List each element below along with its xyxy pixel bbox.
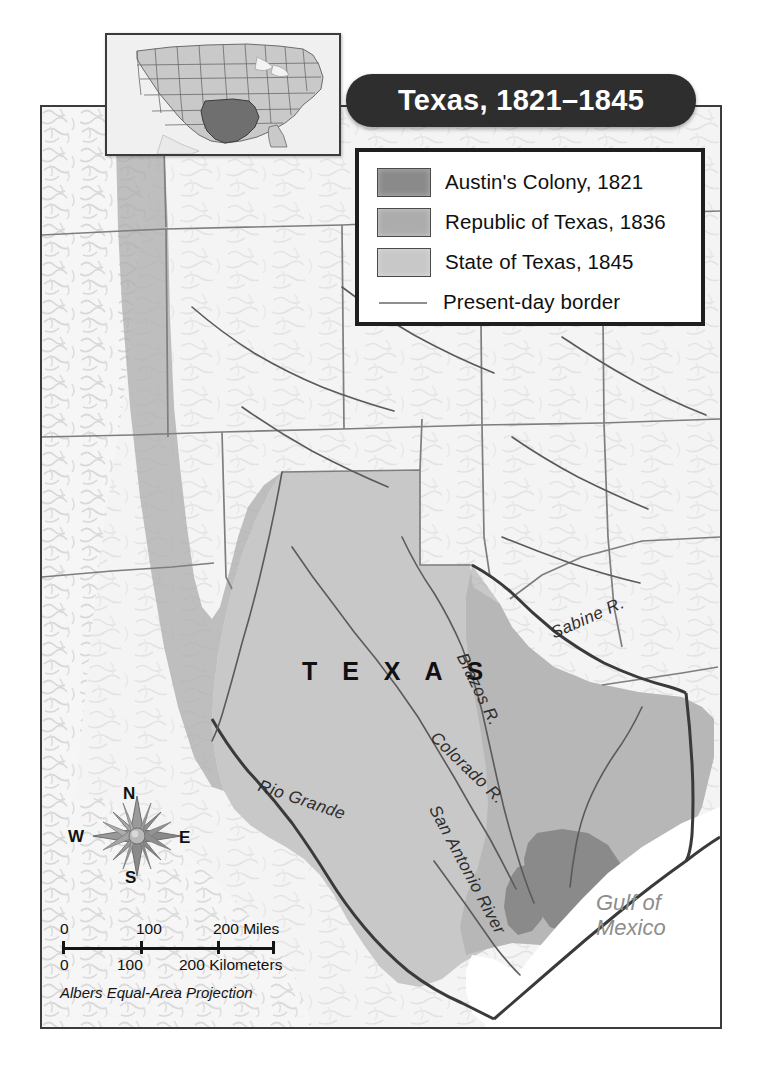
legend-item-austins-colony: Austin's Colony, 1821	[377, 162, 701, 202]
legend-item-state-of-texas: State of Texas, 1845	[377, 242, 701, 282]
scale-bar: 0 100 200 Miles 0 100 200 Kilometers	[60, 920, 320, 976]
legend-label-state-of-texas: State of Texas, 1845	[445, 250, 634, 274]
compass-label-east: E	[179, 828, 190, 848]
scale-miles-tick-0: 0	[60, 920, 69, 938]
legend-swatch-austins-colony	[377, 168, 431, 197]
scale-km-tick-100: 100	[117, 956, 143, 974]
scale-kilometers-labels: 0 100 200 Kilometers	[60, 956, 320, 976]
united-states-locator-inset	[105, 33, 341, 156]
scale-km-tick-0: 0	[60, 956, 69, 974]
legend-label-present-day-border: Present-day border	[443, 290, 620, 314]
compass-label-north: N	[123, 784, 135, 804]
scale-miles-tick-100: 100	[136, 920, 162, 938]
legend-item-present-day-border: Present-day border	[377, 282, 701, 322]
legend-item-republic-of-texas: Republic of Texas, 1836	[377, 202, 701, 242]
scale-miles-labels: 0 100 200 Miles	[60, 920, 320, 940]
inset-map-graphic	[107, 35, 339, 154]
compass-label-south: S	[125, 868, 136, 888]
compass-rose: N W E S	[72, 788, 202, 884]
legend-swatch-state-of-texas	[377, 248, 431, 277]
map-title-banner: Texas, 1821–1845	[346, 74, 696, 127]
page-title: Texas, 1821–1845	[398, 84, 644, 117]
scale-km-tick-200: 200 Kilometers	[179, 956, 282, 974]
map-legend: Austin's Colony, 1821 Republic of Texas,…	[355, 148, 705, 326]
legend-swatch-republic-of-texas	[377, 208, 431, 237]
compass-label-west: W	[68, 827, 84, 847]
scale-bar-graphic	[60, 941, 320, 954]
scale-miles-tick-200: 200 Miles	[213, 920, 279, 938]
projection-note: Albers Equal-Area Projection	[60, 984, 253, 1001]
legend-line-present-day-border	[377, 289, 429, 316]
map-page: Texas, 1821–1845	[0, 0, 760, 1071]
legend-label-republic-of-texas: Republic of Texas, 1836	[445, 210, 666, 234]
legend-label-austins-colony: Austin's Colony, 1821	[445, 170, 643, 194]
